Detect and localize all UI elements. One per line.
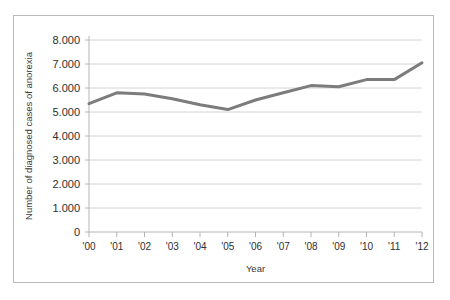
xtick-label: '08 <box>304 241 317 252</box>
line-chart: 01.0002.0003.0004.0005.0006.0007.0008.00… <box>14 16 435 284</box>
xtick-label: '01 <box>110 241 123 252</box>
xtick-label: '03 <box>166 241 179 252</box>
ytick-label: 4.000 <box>52 130 80 142</box>
y-axis-title: Number of diagnosed cases of anorexia <box>23 51 34 220</box>
xtick-label: '11 <box>388 241 401 252</box>
xtick-label: '02 <box>138 241 151 252</box>
xtick-label: '06 <box>249 241 262 252</box>
xtick-label: '00 <box>82 241 95 252</box>
xtick-label: '05 <box>221 241 234 252</box>
xtick-label: '04 <box>193 241 206 252</box>
ytick-label: 7.000 <box>52 58 80 70</box>
xtick-label: '10 <box>360 241 373 252</box>
ytick-label: 8.000 <box>52 34 80 46</box>
ytick-label: 5.000 <box>52 106 80 118</box>
xtick-label: '12 <box>415 241 428 252</box>
ytick-label: 1.000 <box>52 202 80 214</box>
ytick-label: 0 <box>74 226 80 238</box>
ytick-label: 3.000 <box>52 154 80 166</box>
ytick-label: 6.000 <box>52 82 80 94</box>
data-line-series-1 <box>89 63 422 110</box>
xtick-label: '09 <box>332 241 345 252</box>
xtick-label: '07 <box>277 241 290 252</box>
ytick-label: 2.000 <box>52 178 80 190</box>
chart-frame: 01.0002.0003.0004.0005.0006.0007.0008.00… <box>13 15 434 283</box>
x-axis-title: Year <box>246 263 265 274</box>
